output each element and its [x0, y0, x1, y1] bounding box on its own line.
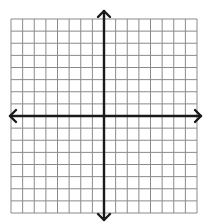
coordinate-plane [0, 0, 210, 224]
